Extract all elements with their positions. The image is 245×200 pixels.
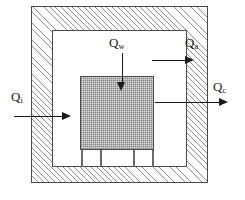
qc-arrow-line: [155, 102, 224, 103]
qa-label: Qa: [185, 36, 198, 49]
qi-subscript: i: [20, 95, 22, 105]
qi-label: Qi: [11, 90, 23, 103]
qw-subscript: w: [118, 41, 124, 51]
qw-arrow-line: [122, 53, 123, 84]
qc-arrow-head-icon: [219, 98, 228, 106]
qw-arrow-head-icon: [117, 82, 125, 91]
support-leg: [81, 150, 83, 167]
support-leg: [133, 150, 135, 167]
qw-symbol: Q: [109, 35, 118, 50]
qw-label: Qw: [109, 36, 125, 49]
qa-symbol: Q: [185, 35, 194, 50]
qi-symbol: Q: [11, 89, 20, 104]
qa-subscript: a: [194, 41, 198, 51]
qi-arrow-line: [14, 116, 64, 117]
qa-arrow-head-icon: [185, 56, 194, 64]
heat-flow-diagram: Qi Qa Qc Qw: [0, 0, 245, 200]
qa-arrow-line: [152, 60, 188, 61]
qi-arrow-head-icon: [62, 112, 71, 120]
qc-symbol: Q: [213, 79, 222, 94]
support-leg: [152, 150, 154, 167]
qc-subscript: c: [222, 85, 226, 95]
support-leg: [100, 150, 102, 167]
qc-label: Qc: [213, 80, 226, 93]
